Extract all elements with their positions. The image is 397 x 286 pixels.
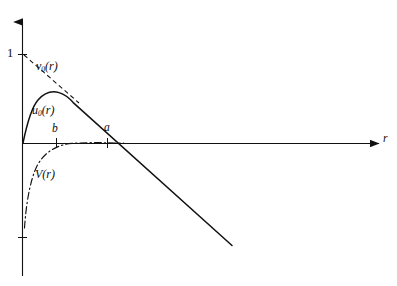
curve-label-V: V(r) (35, 168, 55, 180)
curve-label-V-arg: (r) (42, 167, 55, 181)
curve-label-v0-arg: (r) (45, 59, 58, 73)
curve-V (25, 143, 125, 228)
figure-container: 1 v0(r) u0(r) b a V(r) r (0, 0, 397, 286)
plot-canvas (0, 0, 397, 286)
curve-label-v0: v0(r) (36, 60, 58, 74)
curve-label-u0-arg: (r) (42, 103, 55, 117)
x-axis-tick-label-b: b (52, 123, 58, 135)
x-axis-label: r (383, 133, 387, 145)
curve-label-u0: u0(r) (32, 104, 54, 118)
x-axis-tick-label-a: a (104, 122, 110, 134)
y-axis-tick-label-one: 1 (7, 47, 13, 60)
